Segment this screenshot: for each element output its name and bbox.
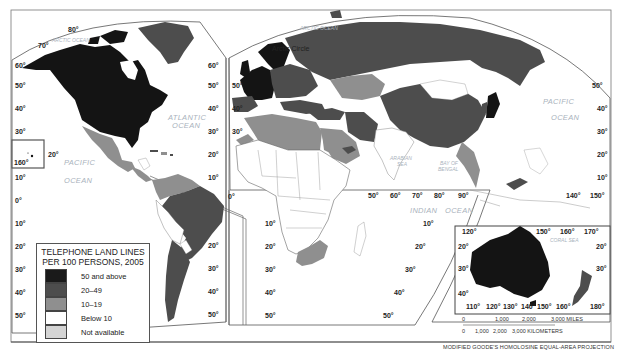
svg-text:150°: 150° — [537, 303, 552, 310]
svg-text:0: 0 — [462, 328, 465, 334]
svg-text:50°: 50° — [592, 82, 603, 89]
svg-text:110°: 110° — [466, 303, 480, 310]
svg-text:20°: 20° — [597, 151, 608, 158]
svg-text:OCEAN: OCEAN — [64, 176, 92, 185]
svg-text:20°: 20° — [458, 243, 469, 250]
legend-item-not-available: Not available — [45, 325, 149, 339]
svg-text:40°: 40° — [458, 290, 469, 297]
legend-item-50-above: 50 and above — [45, 269, 149, 283]
svg-text:10°: 10° — [597, 174, 608, 181]
legend-title: TELEPHONE LAND LINES PER 100 PERSONS, 20… — [37, 247, 149, 267]
svg-text:70°: 70° — [38, 42, 49, 49]
svg-text:160°: 160° — [556, 303, 571, 310]
svg-text:60°: 60° — [15, 62, 26, 69]
svg-text:50°: 50° — [368, 192, 379, 199]
svg-text:50°: 50° — [15, 82, 26, 89]
svg-text:30°: 30° — [208, 128, 219, 135]
svg-text:40°: 40° — [232, 105, 243, 112]
svg-text:90°: 90° — [458, 192, 469, 199]
svg-text:20°: 20° — [596, 243, 607, 250]
svg-text:0: 0 — [462, 316, 465, 322]
svg-text:2,000: 2,000 — [493, 328, 507, 334]
svg-text:150°: 150° — [536, 228, 551, 235]
svg-text:1,000: 1,000 — [475, 328, 489, 334]
svg-text:30°: 30° — [597, 128, 608, 135]
svg-text:OCEAN: OCEAN — [445, 206, 473, 215]
legend-item-below-10: Below 10 — [45, 311, 149, 325]
arctic-ocean-west-label: ARCTIC OCEAN — [51, 37, 90, 43]
svg-text:20°: 20° — [15, 243, 26, 250]
svg-text:40°: 40° — [208, 288, 219, 295]
svg-text:50°: 50° — [15, 312, 26, 319]
svg-text:160°: 160° — [14, 159, 29, 166]
svg-text:20°: 20° — [208, 151, 219, 158]
svg-text:30°: 30° — [265, 266, 276, 273]
svg-text:0°: 0° — [15, 197, 22, 204]
svg-text:0°: 0° — [228, 193, 235, 200]
svg-text:40°: 40° — [394, 289, 405, 296]
svg-text:SEA: SEA — [397, 161, 408, 167]
legend: TELEPHONE LAND LINES PER 100 PERSONS, 20… — [36, 243, 150, 343]
svg-text:50°: 50° — [208, 82, 219, 89]
svg-text:30°: 30° — [232, 128, 243, 135]
svg-text:3,000 MILES: 3,000 MILES — [551, 316, 583, 322]
svg-text:180°: 180° — [590, 303, 605, 310]
svg-text:10°: 10° — [423, 220, 434, 227]
svg-text:70°: 70° — [412, 192, 423, 199]
svg-text:20°: 20° — [208, 242, 219, 249]
svg-text:80°: 80° — [434, 192, 445, 199]
indian-ocean-label: INDIAN — [410, 206, 438, 215]
svg-text:30°: 30° — [208, 265, 219, 272]
svg-text:50°: 50° — [232, 82, 243, 89]
svg-text:20°: 20° — [415, 243, 426, 250]
arctic-ocean-east-label: ARCTIC OCEAN — [299, 25, 338, 31]
svg-text:BENGAL: BENGAL — [438, 166, 459, 172]
svg-text:40°: 40° — [597, 105, 608, 112]
svg-text:1,000: 1,000 — [495, 316, 509, 322]
svg-text:40°: 40° — [208, 105, 219, 112]
svg-text:2,000: 2,000 — [522, 316, 536, 322]
svg-text:60°: 60° — [390, 192, 401, 199]
svg-text:40°: 40° — [265, 289, 276, 296]
svg-text:150°: 150° — [590, 192, 605, 199]
svg-text:3,000 KILOMETERS: 3,000 KILOMETERS — [512, 328, 563, 334]
svg-text:20°: 20° — [265, 243, 276, 250]
svg-text:30°: 30° — [15, 266, 26, 273]
svg-text:10°: 10° — [265, 220, 276, 227]
svg-text:170°: 170° — [584, 228, 599, 235]
svg-text:160°: 160° — [560, 228, 575, 235]
coral-sea-label: CORAL SEA — [550, 237, 579, 243]
projection-credit: MODIFIED GOODE'S HOMOLOSINE EQUAL-AREA P… — [443, 344, 614, 350]
arctic-circle-label: Arctic Circle — [272, 45, 309, 52]
pacific-west-label: PACIFIC — [64, 158, 95, 167]
svg-text:120°: 120° — [462, 228, 477, 235]
svg-text:130°: 130° — [503, 303, 518, 310]
legend-item-10-19: 10–19 — [45, 297, 149, 311]
svg-text:10°: 10° — [15, 174, 26, 181]
svg-text:120°: 120° — [486, 303, 501, 310]
svg-text:40°: 40° — [15, 289, 26, 296]
svg-text:10°: 10° — [15, 220, 26, 227]
svg-text:140°: 140° — [521, 303, 536, 310]
svg-text:30°: 30° — [596, 265, 607, 272]
svg-text:30°: 30° — [405, 266, 416, 273]
svg-text:OCEAN: OCEAN — [551, 113, 579, 122]
svg-text:OCEAN: OCEAN — [172, 121, 200, 130]
svg-text:10°: 10° — [208, 174, 219, 181]
svg-text:140°: 140° — [566, 192, 581, 199]
svg-text:30°: 30° — [15, 128, 26, 135]
svg-text:50°: 50° — [208, 311, 219, 318]
svg-text:50°: 50° — [265, 312, 276, 319]
svg-text:20°: 20° — [48, 151, 59, 158]
svg-text:50°: 50° — [383, 312, 394, 319]
svg-text:80°: 80° — [68, 26, 79, 33]
svg-text:60°: 60° — [208, 62, 219, 69]
svg-text:40°: 40° — [15, 105, 26, 112]
svg-text:30°: 30° — [458, 265, 469, 272]
pacific-east-label: PACIFIC — [543, 97, 574, 106]
legend-item-20-49: 20–49 — [45, 283, 149, 297]
